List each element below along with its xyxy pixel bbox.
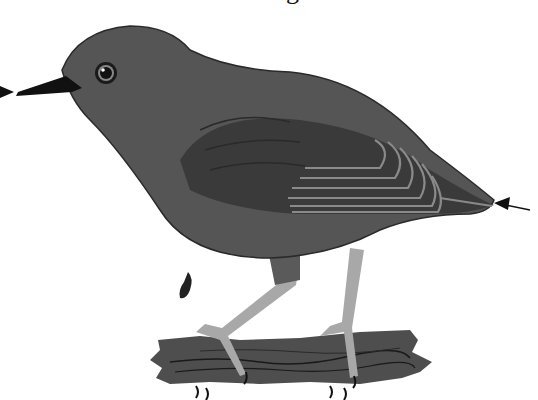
insect <box>180 272 192 298</box>
tail-measure-arrow-icon <box>494 197 530 210</box>
eye <box>95 62 117 84</box>
bird-body <box>62 26 494 258</box>
beak-measure-arrow-icon <box>0 86 14 98</box>
bird-illustration <box>0 0 538 400</box>
log <box>150 330 432 384</box>
